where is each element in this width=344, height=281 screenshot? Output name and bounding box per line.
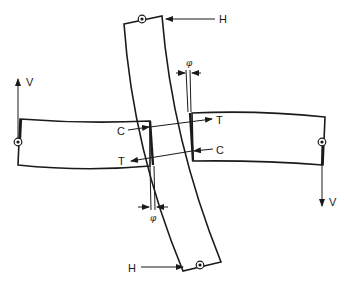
pin-icon-left (14, 138, 22, 146)
label-t-left: T (118, 155, 125, 167)
label-phi-bottom: φ (150, 213, 157, 223)
force-diagram: H H V V C T T C φ φ (0, 0, 344, 281)
t-arrow-left (131, 151, 192, 161)
vertical-member (124, 16, 221, 271)
left-member (18, 119, 150, 169)
pin-icon-bottom (196, 261, 204, 269)
label-h-bottom: H (128, 262, 136, 274)
right-member (192, 112, 325, 165)
label-c-right: C (216, 144, 224, 156)
label-h-top: H (219, 13, 227, 25)
label-t-right: T (216, 114, 223, 126)
t-arrow-right (150, 119, 212, 127)
c-arrow-right (194, 149, 213, 151)
pin-icon-right (318, 138, 326, 146)
label-c-left: C (117, 125, 125, 137)
label-v-left: V (26, 76, 34, 88)
label-v-right: V (329, 196, 337, 208)
pin-icon-top (138, 15, 146, 23)
phi-gap-top (176, 70, 201, 112)
label-phi-top: φ (186, 58, 193, 68)
